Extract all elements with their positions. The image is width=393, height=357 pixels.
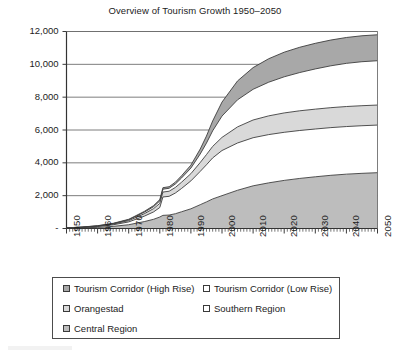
legend-swatch-tourism-corridor-low-rise [203,285,210,292]
y-tick-label: 4,000 [15,156,59,167]
x-tick-label: 1970 [133,215,144,237]
legend-item-orangestad: Orangestad [63,303,124,314]
legend-swatch-tourism-corridor-high-rise [63,285,70,292]
x-tick-label: 2000 [226,215,237,237]
y-tick-label: 6,000 [15,124,59,135]
y-tick-label: 2,000 [15,189,59,200]
legend-swatch-orangestad [63,305,70,312]
x-tick-label: 1990 [195,215,206,237]
x-tick-label: 1980 [164,215,175,237]
y-tick-label: 10,000 [15,58,59,69]
x-tick-label: 2020 [288,215,299,237]
legend-swatch-central-region [63,325,70,332]
y-tick-label: 8,000 [15,91,59,102]
x-tick-label: 1950 [71,215,82,237]
legend-item-central-region: Central Region [63,323,137,334]
y-tick-label: - [15,222,59,233]
legend-label-tourism-corridor-low-rise: Tourism Corridor (Low Rise) [214,283,332,294]
chart-legend: Tourism Corridor (High Rise) Tourism Cor… [52,277,340,339]
legend-label-tourism-corridor-high-rise: Tourism Corridor (High Rise) [74,283,194,294]
legend-item-tourism-corridor-low-rise: Tourism Corridor (Low Rise) [203,283,332,294]
x-tick-label: 2040 [350,215,361,237]
scan-artifact [8,346,72,350]
legend-label-orangestad: Orangestad [74,303,124,314]
x-tick-label: 1960 [102,215,113,237]
legend-label-southern-region: Southern Region [214,303,285,314]
x-tick-label: 2030 [319,215,330,237]
legend-item-tourism-corridor-high-rise: Tourism Corridor (High Rise) [63,283,194,294]
x-tick-label: 2050 [382,215,393,237]
y-tick-label: 12,000 [15,25,59,36]
legend-item-southern-region: Southern Region [203,303,285,314]
legend-swatch-southern-region [203,305,210,312]
legend-label-central-region: Central Region [74,323,137,334]
x-tick-label: 2010 [257,215,268,237]
